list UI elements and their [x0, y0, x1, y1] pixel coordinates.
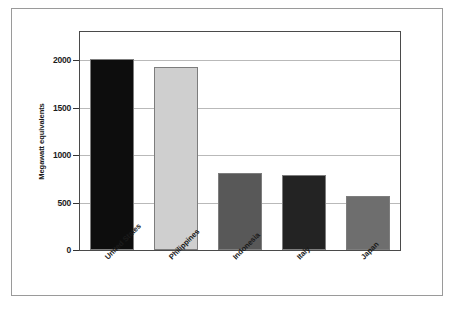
y-tick-mark	[73, 203, 79, 204]
figure-caption	[12, 300, 442, 310]
y-tick-mark	[73, 250, 79, 251]
y-tick-mark	[73, 108, 79, 109]
plot-area	[79, 31, 401, 251]
y-tick-label: 500	[33, 198, 71, 208]
bar-italy	[282, 175, 326, 250]
plot-inner	[80, 32, 400, 250]
y-tick-label: 1500	[33, 103, 71, 113]
bar-philippines	[154, 67, 198, 250]
y-tick-mark	[73, 60, 79, 61]
y-tick-label: 1000	[33, 150, 71, 160]
y-tick-label: 2000	[33, 55, 71, 65]
y-tick-mark	[73, 155, 79, 156]
bar-united-states	[90, 59, 134, 250]
y-axis-title-label: Megawatt equivalents	[37, 103, 46, 180]
y-tick-label: 0	[33, 245, 71, 255]
figure: Megawatt equivalents 0500100015002000 Un…	[0, 0, 452, 310]
bar-japan	[346, 196, 390, 250]
